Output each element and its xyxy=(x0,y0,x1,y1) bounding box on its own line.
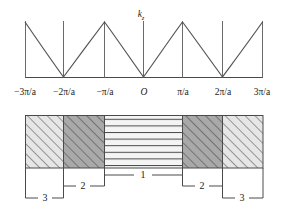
zone-2-left-block xyxy=(64,116,105,169)
band-curve-arc-2 xyxy=(64,22,105,77)
zone-strip xyxy=(26,116,264,169)
tick-label-minus-2pi-over-a: −2π/a xyxy=(53,87,76,97)
band-curve-arc-6 xyxy=(223,22,263,77)
zone-label-2-left: 2 xyxy=(81,180,86,191)
tick-label-pi-over-a: π/a xyxy=(177,87,189,97)
band-curve-arc-4 xyxy=(144,22,183,77)
band-curve-arc-1 xyxy=(25,22,64,77)
zone-label-1: 1 xyxy=(141,169,146,180)
zone-label-2-right: 2 xyxy=(200,180,205,191)
zone-3-right-block xyxy=(223,116,264,169)
brillouin-zone-figure: −3π/a −2π/a −π/a O π/a 2π/a 3π/a kz 3 2 … xyxy=(0,0,287,212)
tick-label-origin: O xyxy=(141,87,148,97)
zone-1-block xyxy=(105,116,183,169)
kz-axis-label-subscript: z xyxy=(141,14,145,21)
zone-3-left-block xyxy=(26,116,64,169)
zone-2-right-block xyxy=(183,116,223,169)
zone-label-3-left: 3 xyxy=(43,192,48,203)
band-curve-plot xyxy=(25,21,263,78)
tick-label-3pi-over-a: 3π/a xyxy=(254,87,271,97)
kz-axis-label: kz xyxy=(138,9,145,21)
tick-label-2pi-over-a: 2π/a xyxy=(215,87,232,97)
band-curve-arc-5 xyxy=(183,22,223,77)
tick-label-minus-3pi-over-a: −3π/a xyxy=(14,87,37,97)
tick-label-minus-pi-over-a: −π/a xyxy=(96,87,114,97)
figure-canvas: −3π/a −2π/a −π/a O π/a 2π/a 3π/a kz 3 2 … xyxy=(0,0,287,212)
band-curve-arc-3 xyxy=(105,22,144,77)
zone-label-3-right: 3 xyxy=(240,192,245,203)
